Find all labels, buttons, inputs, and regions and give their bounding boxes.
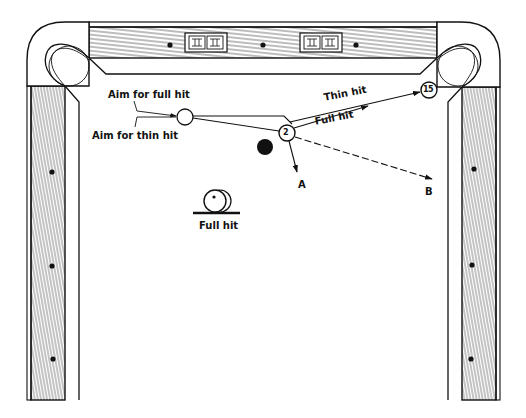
path-to-a: [289, 141, 297, 172]
diamond-marker: [260, 42, 265, 47]
black-ball: [257, 139, 273, 155]
diamond-marker: [50, 356, 55, 361]
diamond-marker: [469, 262, 474, 267]
cue-ball: [177, 109, 193, 125]
diamond-marker: [353, 42, 358, 47]
rail-nameplate-right: [300, 33, 342, 52]
diamond-marker: [49, 169, 54, 174]
rail-nameplate-left: [185, 33, 227, 52]
diamond-marker: [471, 166, 476, 171]
point-b-label: B: [425, 187, 433, 197]
inset-full-hit-label: Full hit: [199, 221, 238, 231]
diamond-marker: [167, 42, 172, 47]
ball-15-number: 15: [423, 86, 433, 94]
pool-table-diagram: [0, 0, 526, 418]
top-rail: [89, 22, 437, 74]
corner-pocket-left: [27, 22, 89, 86]
full-hit-cue-path: [193, 118, 279, 131]
ball-2-number: 2: [283, 129, 289, 137]
aim-pointers: [134, 101, 176, 127]
shot-paths: [193, 92, 432, 179]
right-rail: [448, 87, 500, 400]
aim-thin-hit-label: Aim for thin hit: [92, 131, 178, 141]
corner-pocket-right: [437, 22, 500, 87]
aim-full-hit-label: Aim for full hit: [108, 90, 190, 100]
point-a-label: A: [298, 180, 306, 190]
full-hit-inset: [193, 190, 240, 213]
diamond-marker: [49, 263, 54, 268]
left-rail: [27, 86, 79, 400]
diamond-marker: [468, 356, 473, 361]
path-to-b: [295, 137, 432, 179]
